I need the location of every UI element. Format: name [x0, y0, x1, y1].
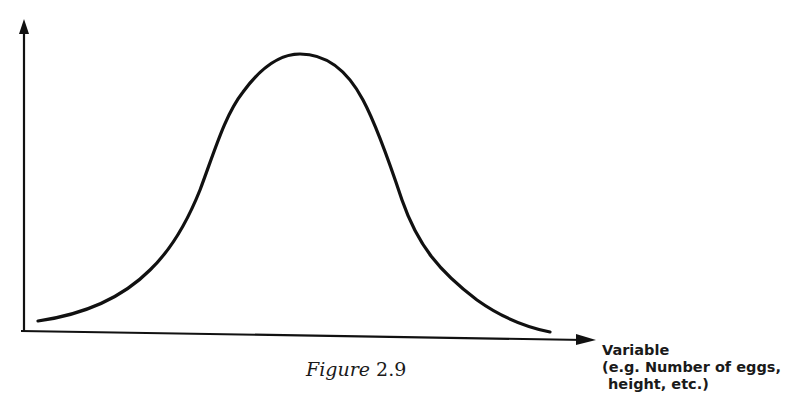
x-axis-note-line-2: height, etc.) — [602, 376, 781, 393]
x-axis-arrow-icon — [576, 334, 596, 345]
figure-caption: Figure 2.9 — [306, 358, 406, 380]
y-axis-arrow-icon — [19, 19, 29, 34]
caption-number: 2.9 — [376, 358, 406, 380]
x-axis-label: Variable (e.g. Number of eggs, height, e… — [602, 342, 781, 393]
x-axis-note-line-1: (e.g. Number of eggs, — [602, 359, 781, 376]
x-axis — [21, 331, 585, 340]
distribution-curve — [38, 54, 550, 332]
caption-word: Figure — [306, 358, 370, 380]
x-axis-title: Variable — [602, 342, 781, 359]
